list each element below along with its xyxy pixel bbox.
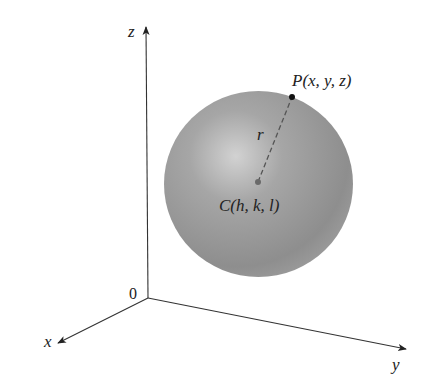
point-p-label: P(x, y, z)	[291, 71, 352, 90]
y-axis	[148, 298, 406, 349]
x-axis-label: x	[43, 332, 52, 351]
diagram-canvas: z x y 0 P(x, y, z) r C(h, k, l)	[0, 0, 428, 382]
point-p-dot	[289, 94, 295, 100]
z-axis	[146, 27, 148, 298]
sphere-diagram: z x y 0 P(x, y, z) r C(h, k, l)	[0, 0, 428, 382]
center-c-label: C(h, k, l)	[219, 196, 280, 215]
y-axis-label: y	[390, 355, 400, 374]
origin-label: 0	[129, 285, 137, 302]
radius-label: r	[257, 125, 264, 144]
x-axis	[58, 298, 148, 343]
z-axis-label: z	[127, 22, 135, 41]
center-c-dot	[255, 179, 261, 185]
